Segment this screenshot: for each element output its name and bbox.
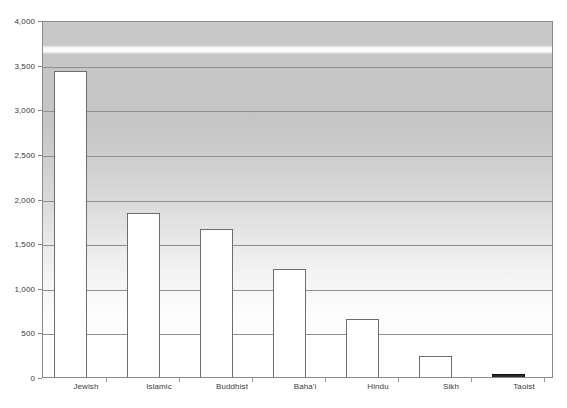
y-tick-label: 1,500 (14, 240, 35, 249)
gridline (43, 201, 552, 202)
y-tick-label: 2,500 (14, 150, 35, 159)
x-tick-mark (325, 378, 326, 382)
gridline (43, 111, 552, 112)
y-tick-mark (38, 21, 42, 22)
y-tick-mark (38, 378, 42, 379)
y-axis: 05001,0001,5002,0002,5003,0003,5004,000 (0, 0, 42, 408)
y-tick-label: 3,000 (14, 106, 35, 115)
y-tick-mark (38, 289, 42, 290)
x-tick-label: Taoist (513, 382, 535, 391)
y-tick-mark (38, 66, 42, 67)
gridline (43, 156, 552, 157)
x-tick-label: Hindu (367, 382, 388, 391)
x-axis: JewishIslamicBuddhistBaha'iHinduSikhTaoi… (42, 382, 553, 408)
y-tick-label: 2,000 (14, 195, 35, 204)
x-tick-mark (179, 378, 180, 382)
x-tick-label: Buddhist (216, 382, 248, 391)
y-tick-label: 4,000 (14, 17, 35, 26)
y-tick-mark (38, 244, 42, 245)
y-tick-mark (38, 110, 42, 111)
x-tick-mark (252, 378, 253, 382)
bar-sikh[interactable] (419, 356, 452, 377)
bar-hindu[interactable] (346, 319, 379, 377)
y-tick-mark (38, 333, 42, 334)
x-tick-mark (471, 378, 472, 382)
bar-buddhist[interactable] (200, 229, 233, 377)
y-tick-label: 500 (21, 329, 35, 338)
bar-baha-i[interactable] (273, 269, 306, 377)
bar-islamic[interactable] (127, 213, 160, 377)
x-tick-label: Jewish (73, 382, 98, 391)
y-tick-label: 3,500 (14, 61, 35, 70)
gridline (43, 245, 552, 246)
x-tick-label: Baha'i (294, 382, 317, 391)
x-tick-label: Sikh (443, 382, 459, 391)
x-tick-mark (544, 378, 545, 382)
plot-area (42, 21, 553, 378)
bar-taoist[interactable] (492, 374, 525, 377)
y-tick-mark (38, 155, 42, 156)
y-tick-label: 1,000 (14, 284, 35, 293)
x-tick-label: Islamic (146, 382, 172, 391)
x-tick-mark (106, 378, 107, 382)
y-tick-mark (38, 200, 42, 201)
y-tick-label: 0 (30, 374, 35, 383)
bar-chart: 05001,0001,5002,0002,5003,0003,5004,000 … (0, 0, 567, 408)
x-tick-mark (398, 378, 399, 382)
bar-jewish[interactable] (54, 71, 87, 377)
gridline (43, 67, 552, 68)
